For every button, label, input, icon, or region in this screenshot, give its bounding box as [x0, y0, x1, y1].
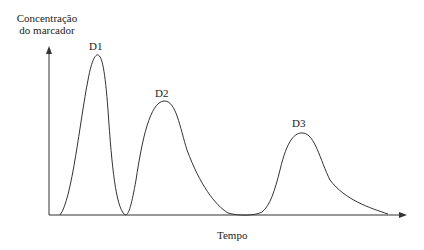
concentration-curve — [60, 55, 388, 215]
chart-canvas — [0, 0, 424, 250]
x-axis-label: Tempo — [217, 229, 247, 241]
peak-label-d3: D3 — [292, 117, 305, 129]
peak-label-d1: D1 — [89, 40, 102, 52]
peak-label-d2: D2 — [155, 87, 168, 99]
y-axis-arrow-icon — [46, 46, 52, 54]
x-axis-arrow-icon — [399, 212, 407, 218]
